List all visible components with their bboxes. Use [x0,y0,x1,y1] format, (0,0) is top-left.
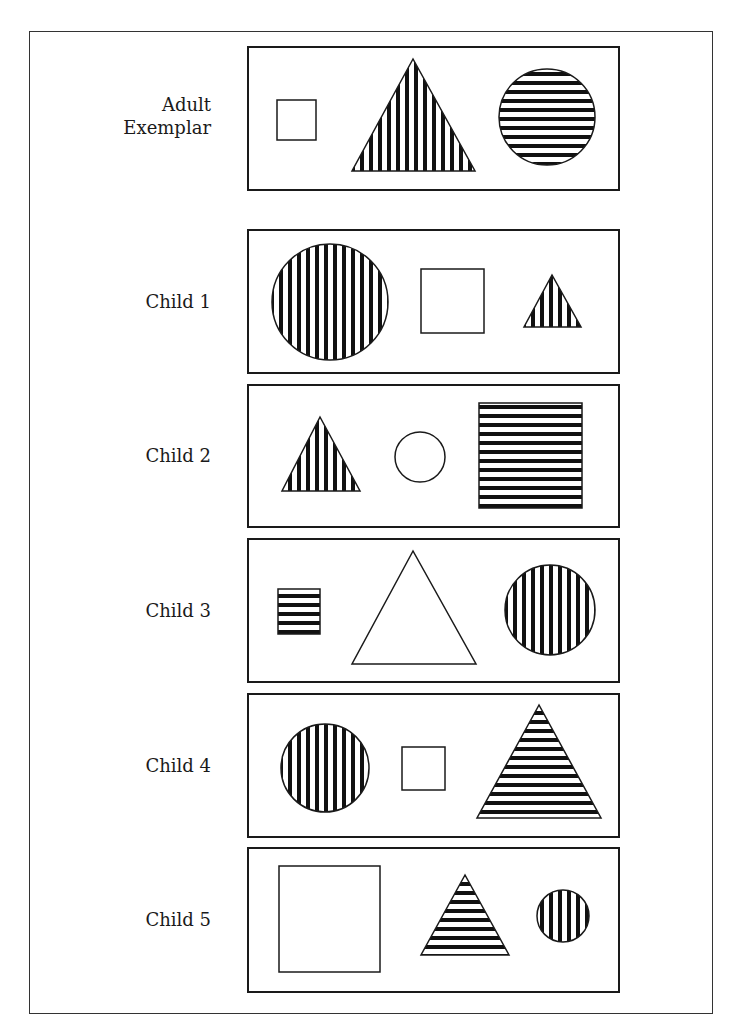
triangle-shape [352,59,475,171]
circle-shape [537,890,589,942]
square-shape [278,589,320,634]
circle-shape [395,432,445,482]
triangle-shape [477,705,601,818]
triangle-shape [282,417,360,491]
circle-shape [281,724,369,812]
square-shape [277,100,316,140]
circle-shape [505,565,595,655]
square-shape [479,403,582,508]
triangle-shape [524,275,581,327]
square-shape [421,269,484,333]
triangle-shape [352,551,476,664]
triangle-shape [421,875,509,955]
square-shape [402,747,445,790]
square-shape [279,866,380,972]
circle-shape [272,244,388,360]
circle-shape [499,69,595,165]
shapes-layer [0,0,738,1033]
